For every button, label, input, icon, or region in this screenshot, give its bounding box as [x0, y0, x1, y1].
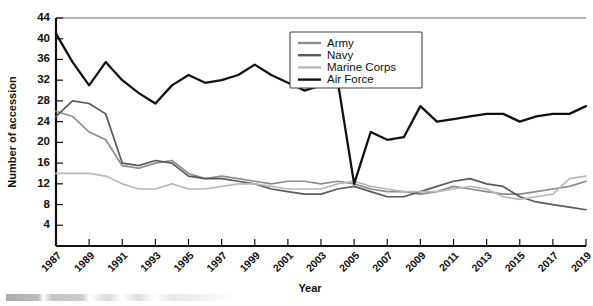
chart-canvas: 48121620242832364044 1987198919911993199…: [0, 0, 593, 306]
x-axis-title: Year: [298, 282, 322, 294]
chart-legend: ArmyNavyMarine CorpsAir Force: [290, 32, 422, 88]
y-tick-label: 24: [37, 115, 50, 127]
x-tick-label: 2007: [370, 249, 395, 274]
accession-line-chart: 48121620242832364044 1987198919911993199…: [0, 0, 593, 306]
y-tick-label: 40: [37, 32, 50, 44]
legend-label-air-force: Air Force: [327, 73, 374, 85]
x-tick-label: 1997: [204, 249, 229, 274]
y-tick-label: 32: [37, 73, 50, 85]
y-tick-label: 16: [37, 156, 50, 168]
caption-fragment: [6, 294, 238, 301]
y-tick-label: 44: [37, 11, 50, 23]
x-tick-label: 1991: [105, 249, 130, 274]
x-tick-label: 2005: [337, 249, 362, 274]
x-tick-label: 2011: [436, 249, 461, 274]
y-tick-label: 4: [44, 218, 51, 230]
y-tick-label: 20: [37, 135, 50, 147]
legend-label-army: Army: [327, 37, 354, 49]
x-tick-label: 1987: [38, 249, 63, 274]
y-tick-label: 28: [37, 94, 50, 106]
x-tick-label: 1993: [138, 249, 163, 274]
x-tick-label: 2009: [403, 249, 428, 274]
x-tick-label: 1999: [237, 249, 262, 274]
y-tick-label: 12: [37, 177, 50, 189]
x-tick-label: 2001: [270, 249, 295, 274]
x-tick-label: 2019: [568, 249, 593, 274]
y-axis-title: Number of accession: [6, 76, 18, 188]
x-axis: 1987198919911993199519971999200120032005…: [38, 239, 593, 274]
x-tick-label: 2003: [303, 249, 328, 274]
legend-label-navy: Navy: [327, 49, 353, 61]
x-tick-label: 1989: [72, 249, 97, 274]
legend-label-marine-corps: Marine Corps: [327, 61, 396, 73]
series-line-army: [56, 111, 586, 194]
x-tick-label: 2017: [535, 249, 560, 274]
series-line-marine-corps: [56, 173, 586, 199]
y-axis: 48121620242832364044: [37, 11, 63, 246]
x-tick-label: 2013: [469, 249, 494, 274]
y-tick-label: 8: [44, 198, 51, 210]
x-tick-label: 2015: [502, 249, 527, 274]
x-tick-label: 1995: [171, 249, 196, 274]
y-tick-label: 36: [37, 52, 50, 64]
